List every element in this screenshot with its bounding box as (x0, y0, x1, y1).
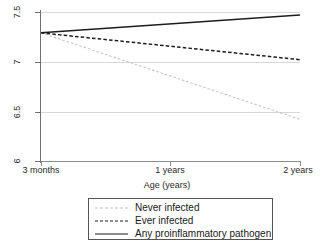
series-line-never-infected (41, 33, 300, 119)
legend-swatch-any-proinflammatory-pathogen (95, 228, 128, 240)
y-tick-label-7-5: 7.5 (12, 0, 22, 25)
x-axis-title: Age (years) (0, 180, 334, 190)
legend-swatch-ever-infected (95, 215, 128, 227)
series-line-any-proinflammatory-pathogen (41, 15, 300, 33)
legend-label-never-infected: Never infected (135, 202, 199, 214)
y-tick-label-7: 7 (12, 49, 22, 75)
x-tick-label-2-years: 2 years (268, 165, 328, 175)
x-tick-label-1-years: 1 years (140, 165, 200, 175)
legend-label-ever-infected: Ever infected (135, 215, 193, 227)
x-tick-label-3-months: 3 months (6, 165, 76, 175)
plot-area (41, 12, 300, 161)
series-lines (41, 12, 300, 161)
y-tick-mark-7 (35, 62, 40, 63)
legend-item-never-infected: Never infected (89, 201, 272, 214)
legend-item-ever-infected: Ever infected (89, 214, 272, 227)
legend: Never infected Ever infected Any proinfl… (88, 198, 273, 240)
y-tick-mark-7-5 (35, 12, 40, 13)
y-tick-mark-6-5 (35, 112, 40, 113)
legend-label-any-proinflammatory-pathogen: Any proinflammatory pathogen (135, 228, 271, 240)
y-tick-mark-6 (35, 161, 40, 162)
chart-figure: 7.5 7 6.5 6 3 months 1 years 2 years Age… (0, 0, 334, 252)
legend-swatch-never-infected (95, 202, 128, 214)
legend-item-any-proinflammatory-pathogen: Any proinflammatory pathogen (89, 227, 272, 240)
y-tick-label-6-5: 6.5 (12, 99, 22, 125)
